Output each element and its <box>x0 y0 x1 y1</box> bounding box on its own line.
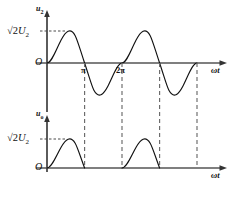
bottom-plot-amplitude-sub: 2 <box>26 138 30 146</box>
bottom-plot-origin-label: O <box>35 162 42 172</box>
top-plot-y-axis-arrowhead <box>44 10 50 17</box>
bottom-plot-x-axis-label: ωt <box>211 171 220 180</box>
bottom-plot-x-axis-arrowhead <box>220 165 228 171</box>
top-plot-signal-label: u2 <box>36 5 43 15</box>
waveform-figure: u2 √2U2 O π 2π ωt uo √2U2 O ωt <box>0 0 236 197</box>
top-plot-amplitude-main: U <box>18 25 26 36</box>
top-plot-signal-label-sub: 2 <box>40 9 43 15</box>
bottom-plot-group <box>36 112 227 172</box>
bottom-plot-amplitude-main: U <box>18 132 26 143</box>
bottom-plot-waveform-uo-hump-1 <box>47 139 85 168</box>
bottom-plot-amplitude-label: √2U2 <box>7 133 29 146</box>
bottom-plot-signal-label: uo <box>36 110 43 120</box>
top-plot-x-axis-arrowhead <box>220 60 228 66</box>
bottom-plot-signal-label-sub: o <box>40 114 43 120</box>
top-plot-tick-label-pi: π <box>81 66 86 75</box>
bottom-plot-y-axis-arrowhead <box>44 115 50 122</box>
top-plot-origin-label: O <box>35 57 42 67</box>
top-plot-amplitude-radical: √2 <box>7 25 18 36</box>
bottom-plot-amplitude-radical: √2 <box>7 132 18 143</box>
top-plot-amplitude-sub: 2 <box>26 31 30 39</box>
top-plot-x-axis-label: ωt <box>211 66 220 75</box>
top-plot-amplitude-label: √2U2 <box>7 26 29 39</box>
bottom-plot-waveform-uo-hump-2 <box>122 139 160 168</box>
top-plot-tick-label-2pi: 2π <box>116 66 125 75</box>
top-plot-group <box>36 10 227 112</box>
